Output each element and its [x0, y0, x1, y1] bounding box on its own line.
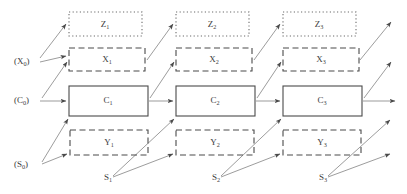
label-x3: X3 [316, 54, 326, 65]
label-s2: S2 [212, 172, 220, 183]
label-x0-initial: (X0) [14, 56, 30, 67]
edge-c0-to-x1 [42, 62, 67, 98]
label-y3: Y3 [317, 137, 327, 148]
edge-s1-to-y2 [113, 154, 173, 177]
edge-s2-to-y3 [221, 154, 280, 177]
edge-x1-to-z2 [147, 24, 173, 60]
node-layer [69, 12, 362, 155]
edge-x0-to-x1 [40, 56, 66, 62]
edge-x0-to-z1 [40, 24, 66, 58]
label-s1: S1 [104, 172, 112, 183]
label-c3: C3 [317, 95, 326, 106]
edge-c1-to-x2 [150, 62, 174, 98]
edge-c2-to-x3 [257, 62, 281, 98]
label-c1: C1 [103, 95, 112, 106]
edge-x2-to-z3 [254, 24, 280, 60]
edge-s3-to-c4-out [328, 120, 390, 176]
label-y2: Y2 [210, 137, 220, 148]
label-x1: X1 [102, 54, 112, 65]
edge-s1-to-c2 [113, 119, 174, 176]
edge-s2-to-c3 [221, 119, 281, 176]
label-z2: Z2 [208, 19, 217, 30]
diagram-canvas: Z1 X1 C1 Y1 S1 Z2 X2 C2 [0, 0, 407, 194]
diagram-root: Z1 X1 C1 Y1 S1 Z2 X2 C2 [0, 0, 407, 194]
label-z3: Z3 [315, 19, 324, 30]
label-s0-initial: (S0) [14, 159, 28, 170]
label-y1: Y1 [104, 137, 114, 148]
edge-c3-to-x4-out [364, 62, 391, 98]
label-s3: S3 [319, 172, 327, 183]
label-z1: Z1 [101, 19, 110, 30]
edge-s3-to-y4-out [328, 154, 390, 177]
label-x2: X2 [209, 54, 219, 65]
edge-x3-to-z4-out [360, 22, 391, 60]
label-c2: C2 [210, 95, 219, 106]
label-c0-initial: (C0) [14, 95, 29, 106]
